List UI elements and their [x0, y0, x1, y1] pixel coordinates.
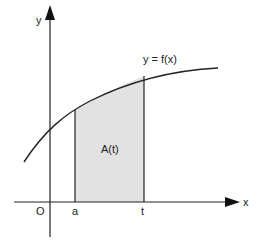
y-axis-arrow-icon: [45, 5, 55, 20]
area-under-curve-diagram: y x O a t y = f(x) A(t): [0, 0, 262, 250]
marker-a-label: a: [72, 205, 79, 217]
origin-label: O: [36, 205, 45, 217]
x-axis-arrow-icon: [225, 197, 240, 207]
x-axis-label: x: [243, 196, 249, 208]
curve-label: y = f(x): [143, 53, 177, 65]
marker-t-label: t: [141, 205, 144, 217]
area-label: A(t): [101, 143, 119, 155]
y-axis-label: y: [36, 14, 42, 26]
shaded-area-region: [75, 76, 144, 202]
